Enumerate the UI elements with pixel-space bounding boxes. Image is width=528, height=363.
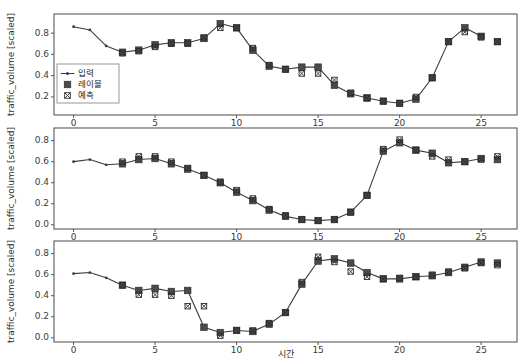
- plot-area-border-3: [54, 241, 517, 342]
- y-tick-label: 0.4: [35, 290, 50, 300]
- x-tick-label: 25: [475, 345, 486, 355]
- x-tick-label: 10: [231, 118, 243, 128]
- y-axis-label-2: traffic_volume [scaled]: [6, 127, 16, 230]
- label-marker: [152, 285, 159, 292]
- input-point: [88, 271, 91, 274]
- label-marker: [201, 324, 208, 331]
- y-tick-label: 0.0: [35, 332, 50, 342]
- y-tick-label: 0.6: [35, 269, 50, 279]
- y-tick-label: 0.0: [35, 219, 50, 229]
- x-tick-label: 25: [475, 118, 486, 128]
- y-tick-label: 0.2: [35, 198, 49, 208]
- y-tick-label: 0.4: [35, 177, 50, 187]
- y-tick-label: 0.8: [35, 135, 50, 145]
- y-axis-label-1: traffic_volume [scaled]: [6, 13, 16, 116]
- x-tick-label: 0: [71, 345, 77, 355]
- x-tick-label: 20: [394, 118, 406, 128]
- input-point: [105, 163, 108, 166]
- y-tick-label: 0.8: [35, 28, 50, 38]
- y-tick-label: 0.2: [35, 311, 49, 321]
- label-marker: [299, 64, 306, 71]
- x-tick-label: 5: [152, 345, 158, 355]
- y-tick-label: 0.4: [35, 70, 50, 80]
- input-point: [88, 29, 91, 32]
- legend-label-label: 레이블: [78, 79, 102, 89]
- y-axis-label-3: traffic_volume [scaled]: [6, 240, 16, 343]
- input-point: [88, 158, 91, 161]
- chart-panel-2: 0.00.20.40.60.80510152025traffic_volume …: [6, 127, 517, 242]
- x-tick-label: 5: [152, 118, 158, 128]
- input-point: [72, 25, 75, 28]
- plot-area-border-1: [54, 14, 517, 115]
- chart-legend[interactable]: 입력레이블예측: [57, 64, 119, 103]
- legend-input-dot: [66, 72, 69, 75]
- chart-panel-1: 0.20.40.60.80510152025traffic_volume [sc…: [6, 13, 517, 128]
- x-axis-label: 시간: [278, 349, 294, 359]
- figure-canvas: 0.20.40.60.80510152025traffic_volume [sc…: [0, 0, 528, 363]
- x-tick-label: 15: [312, 345, 323, 355]
- x-tick-label: 15: [312, 118, 323, 128]
- label-marker: [315, 64, 322, 71]
- x-tick-label: 20: [394, 345, 406, 355]
- chart-svg: 0.20.40.60.80510152025traffic_volume [sc…: [0, 0, 528, 363]
- legend-label-prediction: 예측: [78, 90, 94, 100]
- x-tick-label: 10: [231, 345, 243, 355]
- input-point: [105, 276, 108, 279]
- legend-label-marker: [64, 81, 71, 88]
- y-tick-label: 0.6: [35, 49, 50, 59]
- label-marker: [184, 287, 191, 294]
- y-tick-label: 0.2: [35, 91, 49, 101]
- input-point: [72, 160, 75, 163]
- legend-label-input: 입력: [78, 68, 94, 78]
- chart-panel-3: 0.00.20.40.60.80510152025traffic_volume …: [6, 240, 517, 359]
- y-tick-label: 0.6: [35, 156, 50, 166]
- label-marker: [347, 260, 354, 267]
- input-point: [72, 272, 75, 275]
- x-tick-label: 0: [71, 118, 77, 128]
- input-point: [105, 44, 108, 47]
- y-tick-label: 0.8: [35, 248, 50, 258]
